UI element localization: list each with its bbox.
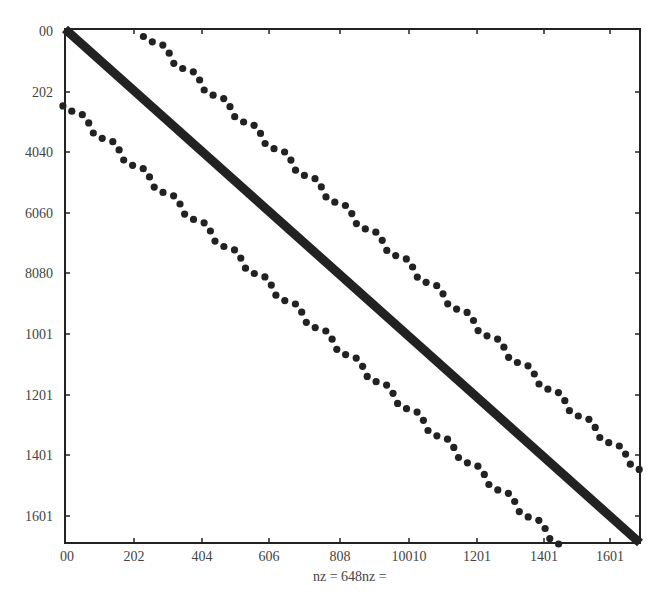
x-tick-label: 1601: [596, 549, 624, 564]
nonzero-marker: [68, 108, 75, 115]
nonzero-marker: [281, 297, 288, 304]
nonzero-marker: [394, 400, 401, 407]
nonzero-marker: [181, 211, 188, 218]
nonzero-marker: [485, 481, 492, 488]
nonzero-marker: [303, 319, 310, 326]
nonzero-marker: [500, 344, 507, 351]
nonzero-marker: [531, 370, 538, 377]
x-axis-label: nz = 648nz =: [313, 569, 387, 584]
nonzero-marker: [99, 135, 106, 142]
y-tick-label: 1401: [25, 448, 53, 463]
nonzero-marker: [240, 118, 247, 125]
nonzero-marker: [353, 355, 360, 362]
nonzero-marker: [575, 412, 582, 419]
nonzero-marker: [505, 490, 512, 497]
nonzero-marker: [333, 346, 340, 353]
upper-off-diagonal-band: [140, 33, 643, 473]
nonzero-marker: [170, 192, 177, 199]
nonzero-marker: [379, 237, 386, 244]
nonzero-marker: [353, 220, 360, 227]
x-tick-label: 202: [124, 549, 145, 564]
nonzero-marker: [190, 68, 197, 75]
nonzero-marker: [129, 162, 136, 169]
nonzero-marker: [298, 309, 305, 316]
nonzero-marker: [281, 148, 288, 155]
nonzero-marker: [383, 247, 390, 254]
nonzero-marker: [622, 451, 629, 458]
nonzero-marker: [292, 300, 299, 307]
nonzero-marker: [342, 351, 349, 358]
nonzero-marker: [555, 389, 562, 396]
lower-off-diagonal-band: [59, 102, 562, 547]
nonzero-marker: [566, 407, 573, 414]
nonzero-marker: [170, 60, 177, 67]
x-tick-label: 404: [192, 549, 213, 564]
y-tick-label: 1601: [25, 509, 53, 524]
nonzero-marker: [251, 122, 258, 129]
nonzero-marker: [120, 156, 127, 163]
nonzero-marker: [596, 434, 603, 441]
nonzero-marker: [511, 498, 518, 505]
nonzero-marker: [312, 324, 319, 331]
nonzero-marker: [166, 50, 173, 57]
nonzero-marker: [159, 189, 166, 196]
nonzero-marker: [470, 317, 477, 324]
nonzero-marker: [140, 165, 147, 172]
nonzero-marker: [262, 140, 269, 147]
nonzero-marker: [226, 103, 233, 110]
nonzero-marker: [409, 263, 416, 270]
nonzero-marker: [116, 146, 123, 153]
nonzero-marker: [433, 282, 440, 289]
nonzero-marker: [146, 173, 153, 180]
y-tick-label: 4040: [25, 145, 53, 160]
nonzero-marker: [561, 397, 568, 404]
y-tick-label: 00: [39, 24, 53, 39]
nonzero-marker: [359, 363, 366, 370]
nonzero-marker: [403, 255, 410, 262]
y-tick-label: 202: [32, 85, 53, 100]
nonzero-marker: [373, 378, 380, 385]
nonzero-marker: [616, 442, 623, 449]
nonzero-marker: [190, 216, 197, 223]
x-tick-label: 808: [330, 549, 351, 564]
nonzero-marker: [444, 436, 451, 443]
nonzero-marker: [453, 306, 460, 313]
nonzero-marker: [524, 362, 531, 369]
nonzero-marker: [592, 424, 599, 431]
nonzero-marker: [201, 86, 208, 93]
x-axis-ticks: 0020240460680810010120114011601: [60, 29, 624, 564]
nonzero-marker: [231, 113, 238, 120]
nonzero-marker: [176, 200, 183, 207]
nonzero-marker: [542, 525, 549, 532]
nonzero-marker: [389, 390, 396, 397]
nonzero-marker: [483, 332, 490, 339]
nonzero-marker: [464, 459, 471, 466]
nonzero-marker: [90, 129, 97, 136]
nonzero-marker: [464, 309, 471, 316]
nonzero-marker: [535, 380, 542, 387]
nonzero-marker: [494, 336, 501, 343]
nonzero-marker: [494, 486, 501, 493]
nonzero-marker: [403, 405, 410, 412]
nonzero-marker: [261, 273, 268, 280]
nonzero-marker: [211, 238, 218, 245]
nonzero-marker: [207, 227, 214, 234]
y-tick-label: 6060: [25, 206, 53, 221]
nonzero-marker: [605, 439, 612, 446]
nonzero-marker: [364, 373, 371, 380]
nonzero-marker: [414, 409, 421, 416]
nonzero-marker: [585, 416, 592, 423]
nonzero-marker: [544, 386, 551, 393]
x-tick-label: 1201: [463, 549, 491, 564]
nonzero-marker: [424, 427, 431, 434]
nonzero-marker: [329, 336, 336, 343]
nonzero-marker: [362, 225, 369, 232]
nonzero-marker: [331, 199, 338, 206]
nonzero-marker: [201, 219, 208, 226]
nonzero-marker: [311, 175, 318, 182]
nonzero-marker: [414, 274, 421, 281]
nonzero-marker: [179, 65, 186, 72]
nonzero-marker: [444, 300, 451, 307]
nonzero-marker: [342, 202, 349, 209]
nonzero-marker: [525, 513, 532, 520]
